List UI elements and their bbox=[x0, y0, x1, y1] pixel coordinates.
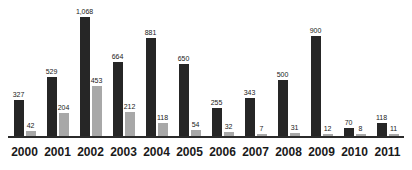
x-tick-2010: 2010 bbox=[338, 142, 371, 162]
bar-group: 3437 bbox=[239, 6, 272, 136]
bar-group: 90012 bbox=[305, 6, 338, 136]
bar-value-label: 881 bbox=[145, 29, 156, 36]
bar-value-label: 327 bbox=[13, 91, 24, 98]
bar-dark-series-2008 bbox=[278, 80, 288, 136]
x-tick-2003: 2003 bbox=[107, 142, 140, 162]
x-tick-2002: 2002 bbox=[74, 142, 107, 162]
bar-group: 50031 bbox=[272, 6, 305, 136]
bar-dark-series-2006 bbox=[212, 108, 222, 136]
x-tick-2006: 2006 bbox=[206, 142, 239, 162]
bar-group: 65054 bbox=[173, 6, 206, 136]
bar-value-label: 31 bbox=[291, 124, 299, 131]
bar-value-label: 7 bbox=[260, 125, 264, 132]
bar-value-label: 32 bbox=[225, 123, 233, 130]
bar-group: 881118 bbox=[140, 6, 173, 136]
x-tick-2009: 2009 bbox=[305, 142, 338, 162]
x-tick-2005: 2005 bbox=[173, 142, 206, 162]
bar-value-label: 118 bbox=[157, 114, 168, 121]
bar-value-label: 343 bbox=[244, 89, 255, 96]
bar-group: 1,068453 bbox=[74, 6, 107, 136]
bar-value-label: 42 bbox=[27, 122, 35, 129]
bar-value-label: 664 bbox=[112, 53, 123, 60]
x-tick-2008: 2008 bbox=[272, 142, 305, 162]
bar-dark-series-2004 bbox=[146, 38, 156, 136]
bar-value-label: 12 bbox=[324, 125, 332, 132]
bar-value-label: 900 bbox=[310, 27, 321, 34]
bar-dark-series-2007 bbox=[245, 98, 255, 136]
x-axis-baseline bbox=[8, 136, 404, 138]
bar-value-label: 8 bbox=[359, 125, 363, 132]
x-tick-2000: 2000 bbox=[8, 142, 41, 162]
bar-value-label: 453 bbox=[91, 77, 102, 84]
bar-dark-series-2010 bbox=[344, 128, 354, 136]
bar-dark-series-2003 bbox=[113, 62, 123, 136]
x-axis-tick-labels: 2000200120022003200420052006200720082009… bbox=[8, 142, 404, 164]
bar-value-label: 11 bbox=[390, 125, 397, 132]
bar-value-label: 500 bbox=[277, 71, 288, 78]
plot-area: 327425292041,068453664212881118650542553… bbox=[8, 6, 404, 136]
bar-value-label: 1,068 bbox=[76, 8, 93, 15]
bar-group: 664212 bbox=[107, 6, 140, 136]
x-tick-2007: 2007 bbox=[239, 142, 272, 162]
bar-value-label: 204 bbox=[58, 104, 69, 111]
bar-value-label: 118 bbox=[376, 114, 387, 121]
bar-value-label: 54 bbox=[192, 121, 200, 128]
bar-value-label: 650 bbox=[178, 55, 189, 62]
bar-group: 11811 bbox=[371, 6, 404, 136]
bar-light-series-2002 bbox=[92, 86, 102, 136]
x-tick-2011: 2011 bbox=[371, 142, 404, 162]
bar-value-label: 70 bbox=[345, 119, 353, 126]
bar-dark-series-2009 bbox=[311, 36, 321, 136]
bar-dark-series-2001 bbox=[47, 77, 57, 136]
bar-chart: 327425292041,068453664212881118650542553… bbox=[0, 0, 412, 170]
bar-group: 32742 bbox=[8, 6, 41, 136]
bar-dark-series-2002 bbox=[80, 17, 90, 136]
bar-light-series-2003 bbox=[125, 112, 135, 136]
bar-dark-series-2005 bbox=[179, 64, 189, 136]
bar-light-series-2001 bbox=[59, 113, 69, 136]
bar-dark-series-2011 bbox=[377, 123, 387, 136]
bar-value-label: 212 bbox=[124, 103, 135, 110]
bar-light-series-2004 bbox=[158, 123, 168, 136]
x-tick-2004: 2004 bbox=[140, 142, 173, 162]
bar-value-label: 529 bbox=[46, 68, 57, 75]
bar-value-label: 255 bbox=[211, 99, 222, 106]
bar-group: 708 bbox=[338, 6, 371, 136]
bar-group: 25532 bbox=[206, 6, 239, 136]
bar-dark-series-2000 bbox=[14, 100, 24, 136]
x-tick-2001: 2001 bbox=[41, 142, 74, 162]
bar-group: 529204 bbox=[41, 6, 74, 136]
